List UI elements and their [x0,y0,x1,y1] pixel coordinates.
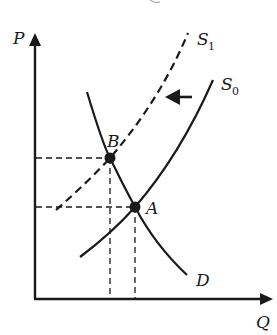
supply-curve-s0 [80,80,213,257]
demand-curve [87,92,187,275]
x-axis-label: Q [256,312,270,332]
s1-letter: S [197,29,209,49]
supply-demand-diagram: P Q B A D S 1 [0,0,277,335]
s0-subscript: 0 [232,85,239,98]
diagram-svg: P Q B A D S 1 [0,0,277,335]
supply-s0-label: S 0 [221,74,239,98]
point-a-label: A [144,198,158,218]
demand-label: D [195,270,210,290]
supply-s1-label: S 1 [197,29,215,53]
x-axis-arrow-icon [260,293,273,305]
arrow-left-icon [165,89,192,105]
point-b-label: B [106,131,120,151]
point-b-marker [105,153,116,164]
cropped-text-fragment [150,0,160,3]
y-axis-arrow-icon [29,33,41,46]
s1-subscript: 1 [208,40,215,53]
point-a-marker [130,202,141,213]
s0-letter: S [221,74,233,94]
y-axis-label: P [12,28,25,48]
y-axis [29,33,41,299]
x-axis [34,293,273,305]
